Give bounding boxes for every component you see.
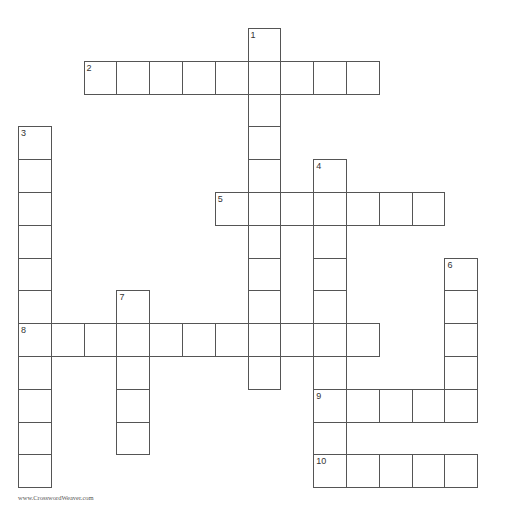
crossword-cell[interactable]: 6 <box>444 258 478 292</box>
crossword-cell[interactable] <box>346 454 380 488</box>
clue-number: 4 <box>316 161 321 171</box>
crossword-cell[interactable] <box>444 323 478 357</box>
crossword-cell[interactable] <box>18 225 52 259</box>
crossword-cell[interactable] <box>248 225 282 259</box>
clue-number: 7 <box>119 292 124 302</box>
crossword-cell[interactable]: 10 <box>313 454 347 488</box>
crossword-cell[interactable] <box>444 454 478 488</box>
crossword-cell[interactable]: 5 <box>215 192 249 226</box>
footer-credit: www.CrosswordWeaver.com <box>18 494 94 501</box>
crossword-cell[interactable] <box>248 61 282 95</box>
crossword-cell[interactable] <box>379 454 413 488</box>
crossword-cell[interactable] <box>313 225 347 259</box>
crossword-cell[interactable] <box>248 356 282 390</box>
crossword-cell[interactable] <box>248 159 282 193</box>
crossword-cell[interactable] <box>215 323 249 357</box>
crossword-cell[interactable] <box>412 192 446 226</box>
crossword-grid: 12384910567 <box>0 0 505 515</box>
crossword-cell[interactable] <box>116 356 150 390</box>
crossword-cell[interactable] <box>51 323 85 357</box>
crossword-cell[interactable] <box>215 61 249 95</box>
crossword-cell[interactable] <box>248 94 282 128</box>
clue-number: 9 <box>316 391 321 401</box>
crossword-cell[interactable] <box>248 126 282 160</box>
crossword-cell[interactable] <box>313 290 347 324</box>
crossword-cell[interactable] <box>346 192 380 226</box>
crossword-cell[interactable] <box>444 389 478 423</box>
clue-number: 3 <box>21 128 26 138</box>
clue-number: 6 <box>447 260 452 270</box>
crossword-cell[interactable] <box>313 422 347 456</box>
crossword-cell[interactable] <box>313 356 347 390</box>
crossword-cell[interactable] <box>182 323 216 357</box>
crossword-cell[interactable] <box>313 323 347 357</box>
crossword-cell[interactable] <box>412 389 446 423</box>
crossword-cell[interactable] <box>346 61 380 95</box>
crossword-cell[interactable] <box>18 258 52 292</box>
crossword-cell[interactable] <box>18 389 52 423</box>
crossword-cell[interactable] <box>116 389 150 423</box>
crossword-cell[interactable]: 4 <box>313 159 347 193</box>
crossword-cell[interactable] <box>248 258 282 292</box>
crossword-cell[interactable] <box>116 323 150 357</box>
crossword-cell[interactable] <box>248 323 282 357</box>
crossword-cell[interactable] <box>18 290 52 324</box>
crossword-cell[interactable] <box>116 422 150 456</box>
crossword-cell[interactable] <box>18 192 52 226</box>
crossword-cell[interactable] <box>280 323 314 357</box>
crossword-cell[interactable] <box>280 61 314 95</box>
clue-number: 10 <box>316 456 326 466</box>
crossword-cell[interactable] <box>18 422 52 456</box>
crossword-cell[interactable] <box>346 389 380 423</box>
crossword-cell[interactable] <box>248 290 282 324</box>
crossword-cell[interactable] <box>379 389 413 423</box>
crossword-cell[interactable] <box>313 192 347 226</box>
clue-number: 1 <box>251 30 256 40</box>
crossword-cell[interactable] <box>412 454 446 488</box>
crossword-cell[interactable] <box>18 356 52 390</box>
crossword-cell[interactable] <box>18 454 52 488</box>
crossword-cell[interactable] <box>444 356 478 390</box>
crossword-cell[interactable] <box>149 61 183 95</box>
crossword-cell[interactable]: 7 <box>116 290 150 324</box>
crossword-cell[interactable]: 2 <box>84 61 118 95</box>
crossword-cell[interactable] <box>84 323 118 357</box>
clue-number: 8 <box>21 325 26 335</box>
crossword-cell[interactable] <box>280 192 314 226</box>
crossword-cell[interactable] <box>346 323 380 357</box>
crossword-cell[interactable]: 9 <box>313 389 347 423</box>
crossword-cell[interactable] <box>444 290 478 324</box>
crossword-cell[interactable] <box>116 61 150 95</box>
crossword-cell[interactable]: 8 <box>18 323 52 357</box>
crossword-cell[interactable] <box>149 323 183 357</box>
crossword-cell[interactable] <box>313 61 347 95</box>
crossword-cell[interactable] <box>248 192 282 226</box>
crossword-cell[interactable]: 1 <box>248 28 282 62</box>
crossword-cell[interactable]: 3 <box>18 126 52 160</box>
crossword-cell[interactable] <box>379 192 413 226</box>
crossword-cell[interactable] <box>182 61 216 95</box>
crossword-cell[interactable] <box>18 159 52 193</box>
clue-number: 5 <box>218 194 223 204</box>
clue-number: 2 <box>87 63 92 73</box>
crossword-cell[interactable] <box>313 258 347 292</box>
